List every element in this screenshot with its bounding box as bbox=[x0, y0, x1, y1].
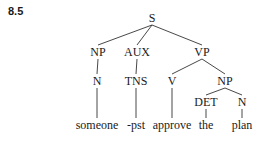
leaf-the: the bbox=[199, 118, 214, 132]
node-np-object: NP bbox=[217, 74, 233, 88]
node-s: S bbox=[149, 11, 156, 25]
tree-edge bbox=[202, 59, 225, 74]
node-det: DET bbox=[194, 95, 218, 109]
tree-edge bbox=[206, 88, 225, 95]
node-aux: AUX bbox=[124, 45, 150, 59]
node-vp: VP bbox=[194, 45, 210, 59]
leaf-plan: plan bbox=[232, 118, 253, 132]
tree-nodes: S NP AUX VP N TNS V NP DET N bbox=[90, 11, 246, 109]
tree-edge bbox=[152, 25, 202, 45]
node-np: NP bbox=[90, 45, 106, 59]
leaf-someone: someone bbox=[76, 118, 119, 132]
tree-leaves: someone -pst approve the plan bbox=[76, 118, 253, 132]
node-n-object: N bbox=[238, 95, 247, 109]
node-n: N bbox=[93, 74, 102, 88]
leaf-pst: -pst bbox=[127, 118, 146, 132]
tree-edge bbox=[172, 59, 202, 74]
syntax-tree: S NP AUX VP N TNS V NP DET N someone -ps… bbox=[0, 0, 255, 145]
tree-edges bbox=[97, 25, 242, 118]
leaf-approve: approve bbox=[153, 118, 192, 132]
tree-edge bbox=[136, 59, 137, 74]
node-tns: TNS bbox=[125, 74, 148, 88]
tree-edge bbox=[97, 59, 98, 74]
node-v: V bbox=[168, 74, 177, 88]
tree-edge bbox=[98, 25, 152, 45]
tree-edge bbox=[225, 88, 242, 95]
